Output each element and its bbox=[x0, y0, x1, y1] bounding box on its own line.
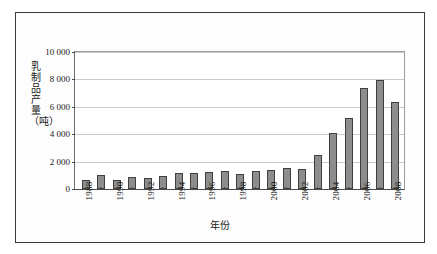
bar-slot bbox=[310, 52, 325, 189]
x-axis-tick-mark bbox=[286, 187, 287, 190]
bar[interactable] bbox=[252, 171, 260, 189]
bar-slot bbox=[248, 52, 263, 189]
bar-series bbox=[76, 52, 405, 189]
bar-slot bbox=[202, 52, 217, 189]
bar-slot bbox=[233, 52, 248, 189]
bar-slot bbox=[109, 52, 124, 189]
x-axis-tick-mark bbox=[193, 187, 194, 190]
bar-slot bbox=[326, 52, 341, 189]
bar-slot bbox=[217, 52, 232, 189]
bar-slot bbox=[356, 52, 371, 189]
bar[interactable] bbox=[314, 155, 322, 189]
bar[interactable] bbox=[159, 176, 167, 189]
y-axis-tick-label: 0 bbox=[66, 185, 71, 194]
bar-slot bbox=[264, 52, 279, 189]
x-axis-tick-mark bbox=[131, 187, 132, 190]
bar[interactable] bbox=[190, 173, 198, 189]
x-axis-tick-mark bbox=[317, 187, 318, 190]
y-axis-tick-mark bbox=[72, 162, 75, 163]
x-axis-tick-mark bbox=[100, 187, 101, 190]
y-axis-tick-label: 6 000 bbox=[50, 102, 70, 111]
y-axis-tick-mark bbox=[72, 52, 75, 53]
bar-chart: 乳制品产量（吨） 02 0004 0006 0008 00010 000 198… bbox=[16, 13, 424, 242]
bar[interactable] bbox=[221, 171, 229, 189]
bar-slot bbox=[186, 52, 201, 189]
y-axis-title: 乳制品产量（吨） bbox=[29, 61, 43, 127]
y-axis-tick-mark bbox=[72, 107, 75, 108]
y-axis-tick-mark bbox=[72, 134, 75, 135]
bar-slot bbox=[155, 52, 170, 189]
bar-slot bbox=[124, 52, 139, 189]
bar-slot bbox=[279, 52, 294, 189]
bar-slot bbox=[387, 52, 402, 189]
y-axis-tick-label: 4 000 bbox=[50, 130, 70, 139]
bar[interactable] bbox=[345, 118, 353, 189]
bar[interactable] bbox=[360, 88, 368, 189]
bar[interactable] bbox=[97, 175, 105, 189]
bar-slot bbox=[93, 52, 108, 189]
y-axis-tick-label: 10 000 bbox=[45, 48, 70, 57]
x-axis-tick-mark bbox=[224, 187, 225, 190]
x-axis-tick-mark bbox=[348, 187, 349, 190]
x-axis-tick-mark bbox=[162, 187, 163, 190]
bar[interactable] bbox=[128, 177, 136, 189]
bar[interactable] bbox=[391, 102, 399, 189]
x-axis-tick-mark bbox=[255, 187, 256, 190]
plot-area: 02 0004 0006 0008 00010 000 bbox=[74, 51, 405, 190]
bar-slot bbox=[78, 52, 93, 189]
x-axis-tick-mark bbox=[379, 187, 380, 190]
bar[interactable] bbox=[283, 168, 291, 189]
bar-slot bbox=[140, 52, 155, 189]
bar[interactable] bbox=[376, 80, 384, 189]
x-axis-title: 年份 bbox=[16, 220, 424, 232]
bar-slot bbox=[341, 52, 356, 189]
x-axis-tick-label: 2008 bbox=[394, 182, 403, 201]
y-axis-tick-mark bbox=[72, 79, 75, 80]
bar-slot bbox=[372, 52, 387, 189]
bar-slot bbox=[295, 52, 310, 189]
figure-frame: 乳制品产量（吨） 02 0004 0006 0008 00010 000 198… bbox=[15, 12, 425, 243]
y-axis-tick-label: 8 000 bbox=[50, 75, 70, 84]
y-axis-tick-label: 2 000 bbox=[50, 157, 70, 166]
bar-slot bbox=[171, 52, 186, 189]
